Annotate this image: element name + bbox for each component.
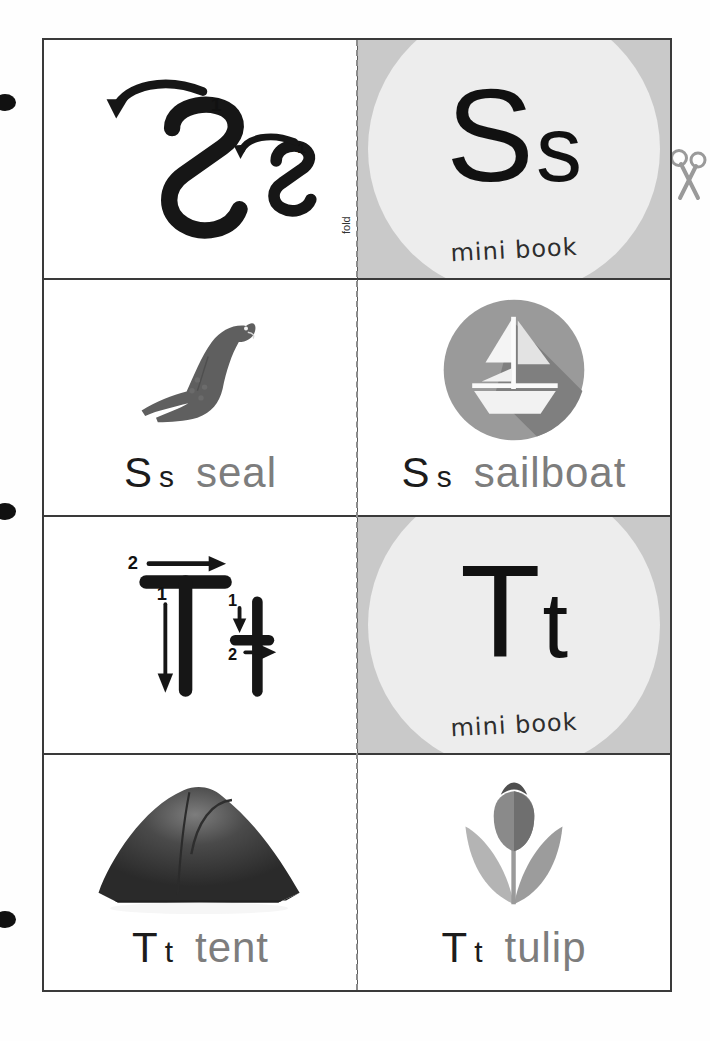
cover-letter-lower: s [536, 98, 582, 200]
printable-sheet: 1 1 Ss mini book [0, 0, 710, 1041]
scissors-icon [668, 140, 708, 202]
card-ss-seal[interactable]: Ssseal [44, 278, 357, 516]
margin-dot [0, 911, 16, 928]
tent-photo [44, 769, 357, 919]
caption-letter-upper: S [402, 449, 431, 496]
cover-letter-upper: T [460, 538, 543, 685]
caption-letter-upper: T [132, 924, 159, 971]
card-ss-tracing[interactable]: 1 1 [44, 40, 357, 278]
card-tt-tracing[interactable]: 2 1 1 2 [44, 515, 357, 753]
fold-line [356, 40, 358, 990]
margin-dot [0, 503, 16, 520]
caption-letter-lower: s [159, 460, 174, 493]
stroke-number: 2 [227, 645, 236, 663]
sailboat-flat-icon [358, 290, 670, 450]
seal-caption: Ssseal [44, 449, 357, 497]
caption-letter-upper: S [124, 449, 153, 496]
caption-letter-lower: t [474, 935, 482, 968]
stroke-number: 1 [156, 583, 166, 604]
card-ss-cover[interactable]: Ss mini book [357, 40, 670, 278]
caption-letter-lower: t [165, 935, 173, 968]
stroke-number: 2 [127, 552, 137, 573]
caption-word: sailboat [474, 449, 627, 496]
caption-word: tent [195, 924, 269, 971]
caption-letter-upper: T [441, 924, 468, 971]
card-tt-cover[interactable]: Tt mini book [357, 515, 670, 753]
sailboat-caption: Sssailboat [358, 449, 670, 497]
caption-word: seal [196, 449, 277, 496]
stroke-number: 1 [297, 139, 306, 156]
ss-cover-letters: Ss [358, 60, 670, 211]
card-tt-tent[interactable]: Tttent [44, 753, 357, 991]
margin-dot [0, 94, 16, 111]
cover-letter-upper: S [446, 62, 536, 209]
fold-label: fold [339, 214, 353, 236]
caption-word: tulip [504, 924, 586, 971]
caption-letter-lower: s [437, 460, 452, 493]
tulip-illustration [358, 763, 670, 923]
stroke-number: 1 [210, 94, 221, 115]
card-tt-tulip[interactable]: Tttulip [357, 753, 670, 991]
tt-cover-letters: Tt [358, 536, 670, 687]
stroke-number: 1 [227, 591, 236, 609]
tulip-caption: Tttulip [358, 924, 670, 972]
cover-letter-lower: t [543, 574, 569, 676]
tt-tracing-art: 2 1 1 2 [44, 517, 357, 753]
tent-caption: Tttent [44, 924, 357, 972]
ss-tracing-art: 1 1 [44, 40, 357, 278]
seal-illustration [44, 294, 357, 446]
card-ss-sailboat[interactable]: Sssailboat [357, 278, 670, 516]
